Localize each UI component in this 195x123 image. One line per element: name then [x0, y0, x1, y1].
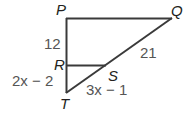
segment-label-st: 3x − 1 [86, 81, 127, 98]
vertex-label-q: Q [171, 2, 183, 19]
vertex-label-r: R [54, 56, 65, 73]
segment-label-qs: 21 [140, 44, 157, 61]
vertex-label-t: T [60, 95, 71, 112]
segment-label-pr: 12 [44, 35, 61, 52]
triangle-diagram: P Q R S T 12 21 2x − 2 3x − 1 [0, 0, 195, 123]
segment-label-rt: 2x − 2 [12, 72, 53, 89]
vertex-label-p: P [56, 1, 66, 18]
